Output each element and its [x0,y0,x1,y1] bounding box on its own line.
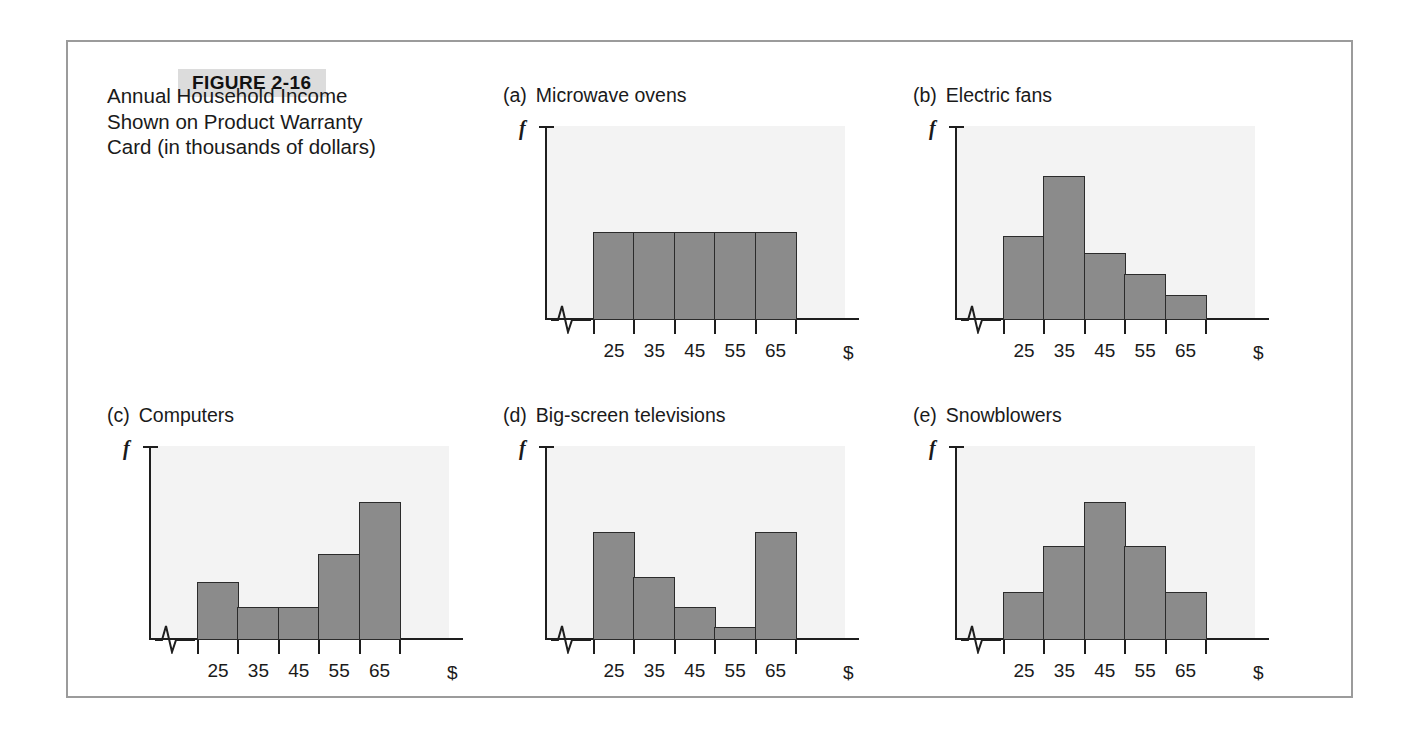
panel-title: (c)Computers [107,404,234,427]
histogram-panel-e: (e)Snowblowersf2535455565$ [913,404,1273,694]
plot-area: f2535455565$ [107,438,467,688]
x-axis-tick-label: 45 [1084,660,1126,682]
histogram-bar [714,627,756,640]
bar-group [593,448,797,640]
x-axis-unit-label: $ [843,662,854,684]
histogram-bar [1003,592,1045,640]
x-axis-tick-label: 45 [674,660,716,682]
x-axis-ticks [197,640,407,654]
x-axis-tick-label: 55 [318,660,360,682]
x-axis-tick [1124,640,1126,654]
histogram-bar [1124,546,1166,640]
x-axis-tick-label: 25 [1003,660,1045,682]
figure-caption: Annual Household Income Shown on Product… [107,83,437,160]
histogram-bar [633,577,675,640]
axis-break-icon [961,302,1001,334]
x-axis-tick [1165,320,1167,334]
panel-title-text: Microwave ovens [536,84,687,106]
panel-tag: (e) [913,404,937,426]
x-axis-tick [1003,320,1005,334]
y-axis-label: f [929,117,936,140]
histogram-bar [1084,502,1126,640]
x-axis-labels: 2535455565 [593,340,803,364]
x-axis-ticks [1003,640,1213,654]
y-axis-label: f [929,437,936,460]
panel-tag: (b) [913,84,937,106]
x-axis-tick [1043,640,1045,654]
x-axis-ticks [593,640,803,654]
x-axis-tick-label: 55 [714,340,756,362]
x-axis-tick [237,640,239,654]
x-axis-labels: 2535455565 [1003,660,1213,684]
histogram-bar [755,532,797,640]
x-axis-tick [1084,320,1086,334]
panel-tag: (c) [107,404,130,426]
histogram-bar [237,607,279,640]
y-axis [955,446,957,640]
histogram-panel-b: (b)Electric fansf2535455565$ [913,84,1273,374]
x-axis-tick-label: 65 [1165,660,1207,682]
x-axis-tick [1205,640,1207,654]
x-axis-tick-label: 25 [593,660,635,682]
histogram-bar [1003,236,1045,320]
x-axis-ticks [1003,320,1213,334]
x-axis-tick-label: 65 [755,660,797,682]
x-axis-tick-label: 35 [633,340,675,362]
histogram-bar [714,232,756,320]
x-axis-labels: 2535455565 [197,660,407,684]
panel-title: (e)Snowblowers [913,404,1062,427]
panel-title: (a)Microwave ovens [503,84,686,107]
axis-break-icon [551,622,591,654]
x-axis-tick-label: 35 [237,660,279,682]
bar-group [1003,448,1207,640]
x-axis-tick-label: 25 [197,660,239,682]
x-axis-unit-label: $ [1253,662,1264,684]
x-axis-tick-label: 35 [1043,660,1085,682]
x-axis-labels: 2535455565 [1003,340,1213,364]
histogram-bar [755,232,797,320]
panel-tag: (d) [503,404,527,426]
x-axis-tick [1084,640,1086,654]
y-axis [545,446,547,640]
histogram-bar [633,232,675,320]
histogram-bar [359,502,401,640]
histogram-bar [593,532,635,640]
x-axis-tick [593,640,595,654]
x-axis-unit-label: $ [1253,342,1264,364]
x-axis-tick [714,640,716,654]
x-axis-tick [1043,320,1045,334]
axis-break-icon [961,622,1001,654]
bar-group [593,128,797,320]
x-axis-ticks [593,320,803,334]
x-axis-tick-label: 65 [1165,340,1207,362]
x-axis-tick [795,640,797,654]
x-axis-tick [795,320,797,334]
y-axis [545,126,547,320]
x-axis-tick [318,640,320,654]
x-axis-tick [755,640,757,654]
panel-tag: (a) [503,84,527,106]
x-axis-tick [1205,320,1207,334]
x-axis-tick-label: 55 [1124,660,1166,682]
x-axis-unit-label: $ [843,342,854,364]
bar-group [197,448,401,640]
x-axis-tick [278,640,280,654]
x-axis-labels: 2535455565 [593,660,803,684]
histogram-bar [593,232,635,320]
x-axis-tick [674,640,676,654]
panel-title-text: Electric fans [946,84,1052,106]
axis-break-icon [155,622,195,654]
x-axis-tick [633,320,635,334]
histogram-bar [1084,253,1126,320]
y-axis-label: f [519,437,526,460]
y-axis-label: f [123,437,130,460]
x-axis-tick-label: 65 [359,660,401,682]
x-axis-tick [755,320,757,334]
histogram-bar [674,607,716,640]
x-axis-tick [674,320,676,334]
x-axis-tick [633,640,635,654]
histogram-panel-a: (a)Microwave ovensf2535455565$ [503,84,863,374]
x-axis-tick-label: 25 [593,340,635,362]
x-axis-tick-label: 45 [1084,340,1126,362]
x-axis-tick [197,640,199,654]
